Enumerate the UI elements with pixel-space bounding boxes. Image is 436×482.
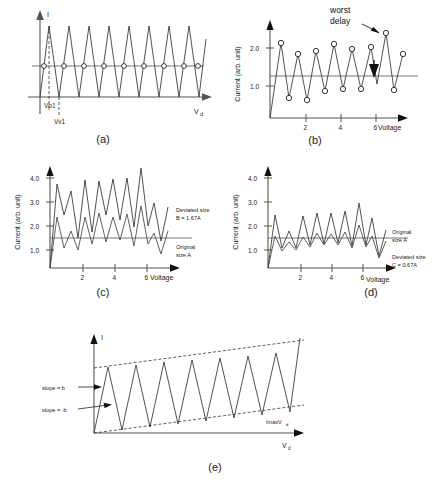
panel-e-y-axis-arrow <box>90 334 97 344</box>
panel-d-y-tick-label: 2.0 <box>248 223 257 230</box>
panel-b-data-marker <box>295 51 300 56</box>
panel-b-data-marker <box>278 40 283 45</box>
panel-a-threshold-marker <box>196 64 201 69</box>
panel-a-threshold-marker <box>182 64 187 69</box>
panel-a-caption: (a) <box>88 133 118 145</box>
panel-c: 4.0 3.0 2.0 1.0 2 4 6 Deviated size B = … <box>4 156 218 286</box>
panel-d: 4.0 3.0 2.0 1.0 2 4 6 Original size A De… <box>218 156 434 286</box>
panel-c-original-label-line1: Original <box>176 244 195 250</box>
panel-e-imax-label: ImaxV <box>266 419 282 425</box>
panel-d-x-tick-label: 2 <box>299 274 303 281</box>
panel-e-caption: (e) <box>200 461 230 473</box>
panel-b: 2.0 1.0 2 4 6 worst delay Voltage Curren… <box>222 2 434 132</box>
panel-e-slope-neg-leader <box>78 405 108 409</box>
panel-c-series-original <box>50 206 168 268</box>
panel-b-plot: 2.0 1.0 2 4 6 worst delay Voltage Curren… <box>222 2 434 132</box>
panel-d-x-axis-label: Voltage <box>366 276 389 284</box>
panel-c-y-axis-arrow <box>46 166 53 176</box>
panel-c-y-axis-label: Current (arb. unit) <box>14 194 22 249</box>
panel-e-imax-sub: d <box>286 422 289 427</box>
panel-e-x-axis-sub: d <box>288 446 291 451</box>
panel-a-x-axis-arrow <box>202 93 212 101</box>
panel-b-data-marker <box>304 97 309 102</box>
panel-a-y-axis-label: I <box>47 11 49 18</box>
panel-c-x-axis-label: Voltage <box>150 274 173 282</box>
panel-c-y-tick-label: 3.0 <box>30 199 39 206</box>
panel-c-x-tick-label: 4 <box>113 274 117 281</box>
panel-c-y-tick-label: 1.0 <box>30 247 39 254</box>
panel-b-caption: (b) <box>300 134 330 146</box>
panel-a-threshold-marker <box>162 64 167 69</box>
panel-b-y-axis-label: Current (arb. unit) <box>234 46 242 101</box>
panel-b-data-marker <box>368 44 373 49</box>
panel-a-vp1-label: Vp1 <box>44 102 56 110</box>
panel-c-original-label-line2: size A <box>176 252 191 258</box>
panel-e-slope-neg-arrow <box>104 403 112 408</box>
panel-a-threshold-marker <box>122 64 127 69</box>
panel-e-x-axis-label: V <box>282 442 287 449</box>
panel-a-threshold-marker <box>82 64 87 69</box>
panel-d-plot: 4.0 3.0 2.0 1.0 2 4 6 Original size A De… <box>218 156 434 286</box>
panel-b-worst-delay-arrow <box>371 27 381 34</box>
panel-e: slope = b slope = -b ImaxV d I V d <box>42 320 362 455</box>
panel-d-series-original <box>268 203 386 268</box>
panel-d-y-axis-arrow <box>264 166 271 176</box>
panel-b-data-marker <box>400 51 405 56</box>
panel-a-threshold-marker <box>102 64 107 69</box>
panel-a: I V d Vp1 Vv1 <box>18 4 218 129</box>
panel-d-y-tick-label: 1.0 <box>248 247 257 254</box>
panel-b-x-tick-label: 2 <box>304 124 308 131</box>
panel-b-worst-delay-label-line1: worst <box>329 5 351 15</box>
panel-b-data-marker <box>322 88 327 93</box>
panel-c-y-tick-label: 4.0 <box>30 175 39 182</box>
panel-b-data-marker <box>358 86 363 91</box>
panel-a-x-axis-label: V <box>194 108 199 115</box>
panel-b-x-tick-label: 4 <box>339 124 343 131</box>
panel-d-original-label-line1: Original <box>392 229 411 235</box>
panel-a-threshold-marker <box>62 64 67 69</box>
panel-d-y-axis-label: Current (arb. unit) <box>232 194 240 249</box>
panel-b-y-axis-arrow <box>266 20 273 30</box>
panel-a-y-axis-arrow <box>36 10 44 20</box>
panel-c-deviated-label-line1: Deviated size <box>176 207 210 213</box>
panel-b-data-marker <box>383 30 388 35</box>
panel-e-slope-neg-label: slope = -b <box>42 407 67 413</box>
panel-b-data-marker <box>349 46 354 51</box>
panel-d-x-tick-label: 4 <box>330 274 334 281</box>
panel-b-y-tick-label: 1.0 <box>250 83 259 90</box>
panel-b-data-marker <box>340 86 345 91</box>
panel-b-worst-delay-label-line2: delay <box>330 16 351 26</box>
panel-b-data-marker <box>391 87 396 92</box>
panel-d-original-label-line2: size A <box>392 237 407 243</box>
panel-c-caption: (c) <box>88 286 118 298</box>
panel-b-y-tick-label: 2.0 <box>250 45 259 52</box>
panel-e-slope-pos-label: slope = b <box>42 385 65 391</box>
panel-e-upper-envelope <box>94 340 304 368</box>
panel-d-y-tick-label: 4.0 <box>248 175 257 182</box>
panel-b-data-marker <box>331 41 336 46</box>
panel-c-deviated-label-line2: B = 1.67A <box>176 215 201 221</box>
panel-e-plot: slope = b slope = -b ImaxV d I V d <box>42 320 362 455</box>
panel-c-x-axis-arrow <box>170 264 180 272</box>
panel-a-x-axis-sub: d <box>200 111 203 117</box>
panel-b-data-marker <box>313 48 318 53</box>
panel-b-x-axis-label: Voltage <box>378 124 401 132</box>
panel-d-x-tick-label: 6 <box>361 274 365 281</box>
panel-c-x-tick-label: 6 <box>145 274 149 281</box>
panel-a-threshold-marker <box>142 64 147 69</box>
panel-b-data-marker <box>286 95 291 100</box>
panel-a-threshold-marker <box>42 64 47 69</box>
panel-a-vv1-label: Vv1 <box>54 118 66 125</box>
panel-c-series-deviated <box>50 168 168 268</box>
panel-e-y-axis-label: I <box>101 334 103 341</box>
panel-d-caption: (d) <box>356 286 386 298</box>
panel-b-x-axis-arrow <box>398 114 408 122</box>
panel-d-y-tick-label: 3.0 <box>248 199 257 206</box>
panel-e-x-axis-arrow <box>294 429 304 437</box>
panel-c-x-tick-label: 2 <box>81 274 85 281</box>
panel-d-deviated-label-line1: Deviated size <box>392 254 426 260</box>
panel-a-waveform <box>40 26 206 97</box>
panel-d-deviated-label-line2: C = 0.67A <box>392 262 417 268</box>
panel-b-x-tick-label: 6 <box>374 124 378 131</box>
panel-c-plot: 4.0 3.0 2.0 1.0 2 4 6 Deviated size B = … <box>4 156 218 286</box>
